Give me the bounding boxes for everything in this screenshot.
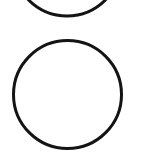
top-circle-partial — [13, 0, 121, 16]
circles-canvas — [0, 0, 142, 158]
bottom-circle — [14, 41, 122, 149]
